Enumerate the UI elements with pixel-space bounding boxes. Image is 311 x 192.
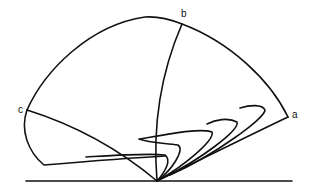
hook-5	[170, 106, 265, 175]
hook-4	[163, 119, 237, 178]
hook-2	[139, 139, 180, 181]
label-c: c	[18, 105, 23, 115]
label-a: a	[292, 110, 298, 120]
fan-diagram	[0, 0, 311, 192]
ray-c	[27, 110, 157, 181]
label-b: b	[181, 9, 187, 19]
outer-arc	[27, 17, 288, 117]
